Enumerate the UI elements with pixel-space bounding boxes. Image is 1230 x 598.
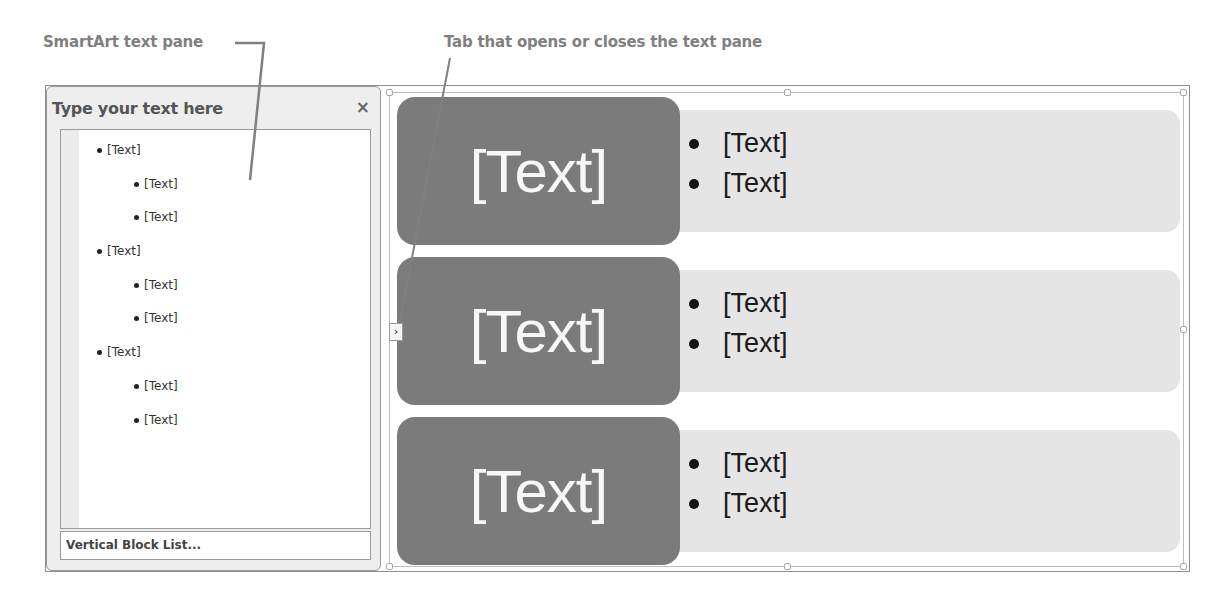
heading-block[interactable]: [Text] [397, 417, 680, 565]
text-pane-list: [Text] [Text] [Text] [Text] [Text] [Text… [61, 142, 178, 445]
resize-handle-bottom-right[interactable] [1180, 563, 1187, 570]
list-item-label: [Text] [144, 311, 178, 325]
bullet-text: [Text] [723, 488, 788, 518]
bullet-item[interactable]: [Text] [687, 165, 788, 205]
heading-block[interactable]: [Text] [397, 97, 680, 245]
layout-description-link[interactable]: Vertical Block List... [60, 531, 371, 560]
list-item[interactable]: [Text] [61, 277, 178, 311]
list-item-label: [Text] [144, 413, 178, 427]
pane-title: Type your text here [52, 99, 223, 118]
bullet-icon [134, 418, 139, 423]
bullet-icon [689, 499, 699, 509]
heading-text: [Text] [470, 457, 607, 526]
diagram-row: [Text] [Text] [Text] [397, 97, 1181, 245]
list-item-label: [Text] [144, 177, 178, 191]
bullet-icon [134, 182, 139, 187]
list-item-label: [Text] [107, 244, 141, 258]
bullet-icon [689, 179, 699, 189]
bullet-item[interactable]: [Text] [687, 285, 788, 325]
bullet-item[interactable]: [Text] [687, 125, 788, 165]
smartart-text-pane: Type your text here × [Text] [Text] [Tex… [46, 86, 381, 571]
bullet-list: [Text] [Text] [687, 125, 788, 205]
resize-handle-bottom-left[interactable] [386, 563, 393, 570]
list-item-label: [Text] [144, 278, 178, 292]
list-item[interactable]: [Text] [61, 243, 178, 277]
bullet-icon [134, 316, 139, 321]
bullet-icon [97, 148, 102, 153]
heading-text: [Text] [470, 297, 607, 366]
bullet-icon [689, 299, 699, 309]
diagram-row: [Text] [Text] [Text] [397, 257, 1181, 405]
chevron-right-icon: › [394, 326, 398, 337]
list-item[interactable]: [Text] [61, 142, 178, 176]
heading-block[interactable]: [Text] [397, 257, 680, 405]
text-entry-area[interactable]: [Text] [Text] [Text] [Text] [Text] [Text… [60, 129, 371, 529]
list-item[interactable]: [Text] [61, 176, 178, 210]
list-item-label: [Text] [107, 143, 141, 157]
bullet-icon [134, 384, 139, 389]
text-pane-toggle-tab[interactable]: › [389, 323, 403, 341]
bullet-item[interactable]: [Text] [687, 445, 788, 485]
resize-handle-top-left[interactable] [386, 89, 393, 96]
list-item-label: [Text] [107, 345, 141, 359]
bullet-icon [134, 215, 139, 220]
list-item[interactable]: [Text] [61, 378, 178, 412]
bullet-icon [97, 350, 102, 355]
bullet-list: [Text] [Text] [687, 285, 788, 365]
resize-handle-top-right[interactable] [1180, 89, 1187, 96]
list-item[interactable]: [Text] [61, 310, 178, 344]
bullet-icon [689, 139, 699, 149]
list-item-label: [Text] [144, 210, 178, 224]
bullet-item[interactable]: [Text] [687, 485, 788, 525]
bullet-icon [689, 459, 699, 469]
diagram-row: [Text] [Text] [Text] [397, 417, 1181, 565]
bullet-text: [Text] [723, 288, 788, 318]
list-item[interactable]: [Text] [61, 344, 178, 378]
bullet-icon [97, 249, 102, 254]
bullet-item[interactable]: [Text] [687, 325, 788, 365]
bullet-text: [Text] [723, 128, 788, 158]
close-icon[interactable]: × [356, 98, 370, 116]
list-item-label: [Text] [144, 379, 178, 393]
list-item[interactable]: [Text] [61, 412, 178, 446]
bullet-text: [Text] [723, 328, 788, 358]
callout-toggle-tab: Tab that opens or closes the text pane [444, 33, 762, 51]
resize-handle-right[interactable] [1180, 326, 1187, 333]
callout-smartart-text-pane: SmartArt text pane [43, 33, 203, 51]
resize-handle-top[interactable] [784, 89, 791, 96]
heading-text: [Text] [470, 137, 607, 206]
list-item[interactable]: [Text] [61, 209, 178, 243]
bullet-icon [134, 283, 139, 288]
bullet-text: [Text] [723, 448, 788, 478]
bullet-icon [689, 339, 699, 349]
bullet-text: [Text] [723, 168, 788, 198]
bullet-list: [Text] [Text] [687, 445, 788, 525]
